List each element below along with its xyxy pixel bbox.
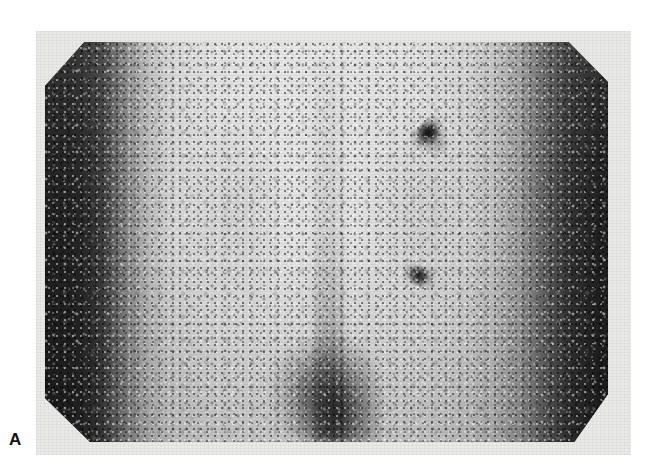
focal-spot-upper xyxy=(417,122,439,144)
paravertebral-left-shading xyxy=(191,122,281,306)
lower-central-uptake xyxy=(290,306,386,442)
scan-panel xyxy=(36,31,631,455)
figure-root: A xyxy=(0,0,653,476)
focal-spot-lower xyxy=(409,266,429,286)
panel-label: A xyxy=(9,431,22,448)
gamma-camera-field-of-view xyxy=(45,42,608,442)
